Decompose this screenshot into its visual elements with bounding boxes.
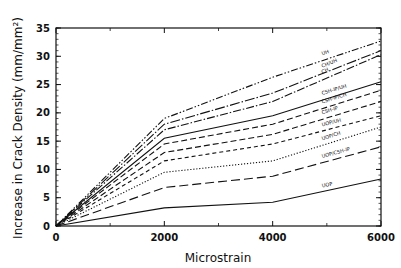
y-tick-label: 35 [36,23,50,34]
crack-density-chart: 05101520253035 0200040006000 UHCH/UHCHCS… [0,0,401,268]
x-tick-label: 0 [53,232,60,243]
y-axis-title: Increase in Crack Density (mm/mm²) [11,17,25,239]
y-tick-label: 30 [36,51,50,62]
y-tick-label: 15 [36,136,50,147]
series-labels: UHCH/UHCHCSH-IP/UHCSH-IP/CHCSH-IPUOP/UHU… [320,48,350,188]
series-label: UOP [321,180,333,188]
y-tick-label: 10 [36,164,50,175]
series-line-ch-uh [56,51,381,226]
y-tick-label: 25 [36,79,50,90]
series-label: UOP/UH [321,117,342,128]
series-line-uop-ch [56,127,381,226]
y-tick-label: 5 [43,192,50,203]
x-axis-ticks: 0200040006000 [53,28,395,243]
series-label: UOP/CH [321,130,342,142]
x-axis-title: Microstrain [185,251,251,265]
x-tick-label: 6000 [367,232,395,243]
y-tick-label: 0 [43,221,50,232]
series-line-ch [56,55,381,226]
x-tick-label: 2000 [150,232,178,243]
series-label: UH [321,48,330,56]
series-label: CSH-IP [321,105,339,116]
x-tick-label: 4000 [259,232,287,243]
series-label: UOP/CSH-IP [321,146,351,159]
y-tick-label: 20 [36,107,50,118]
